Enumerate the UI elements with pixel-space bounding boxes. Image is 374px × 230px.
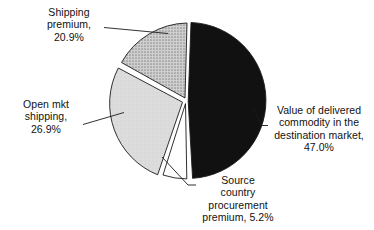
pie-label-open-mkt-shipping: Open mkt shipping, 26.9% bbox=[8, 98, 84, 135]
pie-label-source-country: Source country procurement premium, 5.2% bbox=[186, 174, 290, 224]
pie-slice-value-delivered bbox=[188, 23, 266, 179]
pie-label-value-delivered: Value of delivered commodity in the dest… bbox=[266, 104, 372, 154]
pie-chart: Shipping premium, 20.9% Open mkt shippin… bbox=[0, 0, 374, 230]
pie-label-shipping-premium: Shipping premium, 20.9% bbox=[26, 6, 112, 43]
